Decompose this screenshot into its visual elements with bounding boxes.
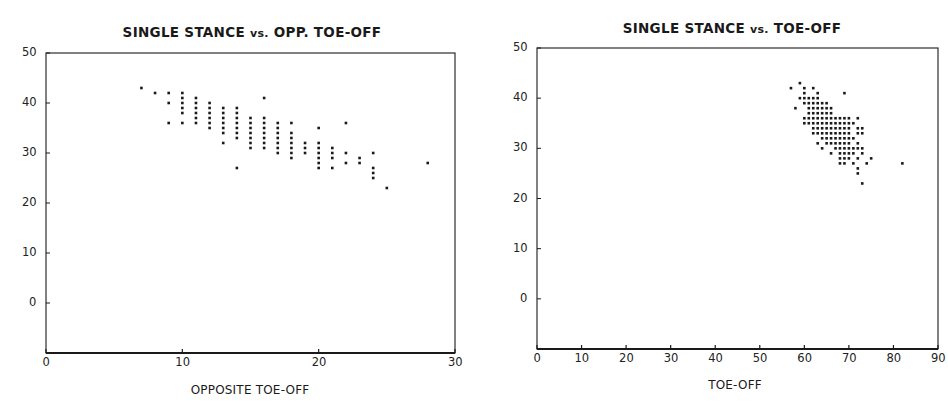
data-point — [843, 162, 846, 165]
data-point — [843, 157, 846, 160]
data-point — [825, 122, 828, 125]
data-point — [834, 132, 837, 135]
data-point — [857, 172, 860, 175]
data-point — [861, 147, 864, 150]
data-point — [834, 142, 837, 145]
data-point — [848, 137, 851, 140]
data-point — [834, 137, 837, 140]
x-tick-label: 80 — [886, 351, 901, 365]
data-point — [821, 127, 824, 130]
chart-right-xlabel: TOE-OFF — [708, 378, 762, 392]
data-point — [812, 132, 815, 135]
data-point — [834, 117, 837, 120]
data-point — [812, 87, 815, 90]
x-tick-label: 20 — [619, 351, 634, 365]
data-point — [901, 162, 904, 165]
data-point — [839, 162, 842, 165]
data-point — [865, 162, 868, 165]
data-point — [816, 142, 819, 145]
data-point — [830, 132, 833, 135]
data-point — [812, 127, 815, 130]
data-point — [803, 97, 806, 100]
data-point — [857, 142, 860, 145]
y-tick-label: 20 — [513, 191, 528, 205]
y-tick-label: 40 — [513, 90, 528, 104]
data-point — [816, 112, 819, 115]
data-point — [843, 147, 846, 150]
data-point — [843, 132, 846, 135]
data-point — [816, 92, 819, 95]
x-tick-label: 70 — [842, 351, 857, 365]
data-point — [812, 122, 815, 125]
data-point — [816, 127, 819, 130]
data-point — [821, 147, 824, 150]
data-point — [857, 132, 860, 135]
data-point — [812, 102, 815, 105]
data-point — [803, 117, 806, 120]
x-tick-label: 50 — [753, 351, 768, 365]
x-tick-label: 30 — [664, 351, 679, 365]
data-point — [807, 117, 810, 120]
data-point — [857, 157, 860, 160]
data-point — [807, 102, 810, 105]
data-point — [816, 107, 819, 110]
data-point — [816, 132, 819, 135]
data-point — [825, 102, 828, 105]
data-point — [848, 117, 851, 120]
data-point — [830, 127, 833, 130]
data-point — [848, 132, 851, 135]
data-point — [812, 97, 815, 100]
data-point — [821, 137, 824, 140]
data-point — [807, 122, 810, 125]
data-point — [825, 137, 828, 140]
data-point — [843, 127, 846, 130]
data-point — [834, 147, 837, 150]
data-point — [861, 127, 864, 130]
data-point — [807, 112, 810, 115]
data-point — [812, 117, 815, 120]
x-tick-label: 10 — [575, 351, 590, 365]
data-point — [821, 112, 824, 115]
x-tick-label: 0 — [534, 351, 541, 365]
data-point — [816, 97, 819, 100]
y-tick-label: 10 — [513, 241, 528, 255]
data-point — [852, 122, 855, 125]
data-point — [839, 142, 842, 145]
chart-right-plot — [0, 0, 948, 403]
data-point — [812, 107, 815, 110]
chart-right: SINGLE STANCE vs. TOE-OFF 50403020100010… — [0, 0, 948, 403]
data-point — [839, 152, 842, 155]
data-point — [843, 92, 846, 95]
data-point — [843, 122, 846, 125]
data-point — [803, 102, 806, 105]
data-point — [839, 122, 842, 125]
data-point — [830, 112, 833, 115]
data-point — [848, 142, 851, 145]
data-point — [852, 137, 855, 140]
data-point — [848, 147, 851, 150]
data-point — [825, 142, 828, 145]
data-point — [839, 127, 842, 130]
data-point — [799, 97, 802, 100]
x-tick-label: 60 — [797, 351, 812, 365]
data-point — [857, 127, 860, 130]
data-point — [834, 122, 837, 125]
plot-frame — [537, 48, 938, 349]
x-tick-label: 40 — [708, 351, 723, 365]
data-point — [861, 152, 864, 155]
data-point — [848, 127, 851, 130]
data-point — [830, 152, 833, 155]
data-point — [790, 87, 793, 90]
data-point — [848, 152, 851, 155]
data-point — [830, 117, 833, 120]
data-point — [857, 117, 860, 120]
data-point — [852, 162, 855, 165]
data-point — [852, 152, 855, 155]
data-point — [821, 117, 824, 120]
data-point — [807, 97, 810, 100]
data-point — [843, 142, 846, 145]
data-point — [834, 127, 837, 130]
data-point — [825, 132, 828, 135]
x-tick-label: 90 — [931, 351, 946, 365]
data-point — [816, 102, 819, 105]
